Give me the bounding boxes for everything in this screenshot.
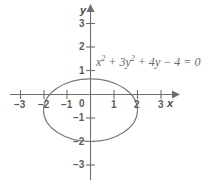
graph-figure: −3 −2 −1 0 1 2 3 3 2 1 −1 −2 −3 y x x2 +… [0,0,220,185]
y-tick-label--2: −2 [73,137,84,147]
y-tick-label--3: −3 [73,160,84,170]
x-tick-label-3: 3 [158,100,164,110]
x-axis-label: x [167,98,173,109]
equation-part-plus3: + 3 [105,55,125,69]
x-tick-label-0: 0 [79,99,85,109]
equation-annotation: x2 + 3y2 + 4y − 4 = 0 [96,55,200,68]
x-tick-label--2: −2 [38,100,49,110]
y-axis-label: y [80,5,86,16]
x-tick-label--1: −1 [61,100,72,110]
y-tick-label-2: 2 [79,42,85,52]
x-tick-label-1: 1 [111,100,117,110]
y-tick-label--1: −1 [73,113,84,123]
x-axis-arrow-icon [172,91,180,99]
y-tick-label-1: 1 [79,66,85,76]
x-tick-label--3: −3 [14,100,25,110]
equation-part-plus4: + 4 [135,55,155,69]
coordinate-plane [0,0,220,185]
y-tick-label-3: 3 [79,19,85,29]
x-tick-label-2: 2 [134,100,140,110]
y-axis-arrow-icon [87,4,95,12]
equation-part-tail: − 4 = 0 [160,55,200,69]
